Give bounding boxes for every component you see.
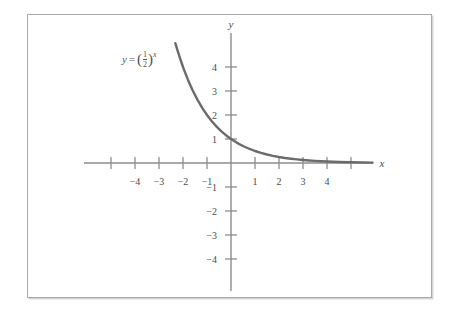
fraction-numerator: 1 <box>143 51 147 59</box>
y-tick-label-2: 2 <box>212 110 217 121</box>
x-axis-label: x <box>379 157 385 169</box>
y-tick-label--2: −2 <box>206 206 217 217</box>
x-tick-label-3: 3 <box>301 176 306 187</box>
equation-exponent: x <box>153 50 157 59</box>
equation-label: y=(12)x <box>122 51 157 70</box>
y-tick-label-1: 1 <box>212 134 217 145</box>
x-tick-label--3: −3 <box>154 176 165 187</box>
plot-area: −4 −3 −2 −1 1 2 3 4 <box>28 15 433 299</box>
fraction-denominator: 2 <box>143 61 147 69</box>
x-tick-label--2: −2 <box>178 176 189 187</box>
figure-frame: −4 −3 −2 −1 1 2 3 4 <box>27 14 432 298</box>
y-tick-label-3: 3 <box>212 86 217 97</box>
function-curve <box>175 43 372 162</box>
y-tick-label--4: −4 <box>206 254 217 265</box>
y-tick-label--1: −1 <box>206 182 217 193</box>
y-tick-label-4: 4 <box>212 62 217 73</box>
plot-svg: −4 −3 −2 −1 1 2 3 4 <box>28 15 433 299</box>
equation-fraction: 12 <box>142 51 148 70</box>
y-axis-label: y <box>228 18 234 30</box>
x-tick-label-1: 1 <box>253 176 258 187</box>
figure-root: −4 −3 −2 −1 1 2 3 4 <box>0 0 460 315</box>
x-tick-label-4: 4 <box>325 176 330 187</box>
x-axis-tick-labels: −4 −3 −2 −1 1 2 3 4 <box>130 176 330 187</box>
y-tick-label--3: −3 <box>206 230 217 241</box>
x-tick-label-2: 2 <box>277 176 282 187</box>
x-tick-label--4: −4 <box>130 176 141 187</box>
equation-equals-sign: = <box>127 53 137 65</box>
